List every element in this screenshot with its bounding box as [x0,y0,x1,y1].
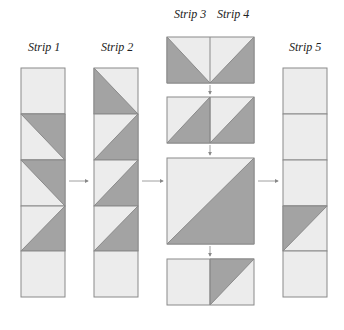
strip-2 [94,68,138,297]
strip-3-4-block-2 [167,97,254,143]
strip-3-4-large-block [167,158,254,244]
strip-1 [21,68,65,297]
strip-3-4-block-bottom [167,259,254,305]
strip-5 [283,68,327,297]
quilt-strip-diagram [0,0,344,330]
strip-3-4-block-1 [167,37,254,83]
